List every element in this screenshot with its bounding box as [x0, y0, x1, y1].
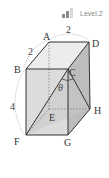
prism-diagram: A D B C E H F G 2 2 4 θ — [0, 0, 109, 178]
angle-label-theta: θ — [58, 82, 63, 93]
vertex-label-h: H — [94, 105, 101, 116]
vertex-label-e: E — [49, 112, 55, 123]
vertex-label-c: C — [69, 67, 76, 78]
vertex-label-b: B — [14, 64, 21, 75]
vertex-label-g: G — [64, 137, 71, 148]
dimension-label-ad: 2 — [66, 24, 71, 35]
dimension-label-bf: 4 — [10, 101, 15, 112]
vertex-label-d: D — [92, 38, 99, 49]
vertex-label-f: F — [14, 136, 20, 147]
dimension-label-ab: 2 — [28, 46, 33, 57]
vertex-label-a: A — [43, 31, 51, 42]
